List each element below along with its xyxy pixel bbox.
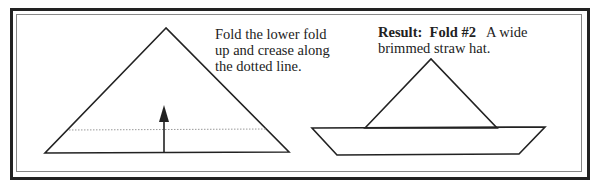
arrow-up-icon (159, 105, 169, 153)
result-label: Result: (378, 24, 422, 40)
dotted-fold-line (69, 129, 266, 130)
result-caption: Result: Fold #2 A wide brimmed straw hat… (378, 24, 568, 56)
instruction-line: Fold the lower fold (215, 26, 365, 42)
result-description: brimmed straw hat. (378, 40, 568, 56)
fold-label: Fold #2 (430, 24, 476, 40)
result-description: A wide (486, 24, 527, 40)
step1-instruction: Fold the lower fold up and crease along … (215, 26, 365, 74)
instruction-line: up and crease along (215, 42, 365, 58)
instruction-line: the dotted line. (215, 58, 365, 74)
